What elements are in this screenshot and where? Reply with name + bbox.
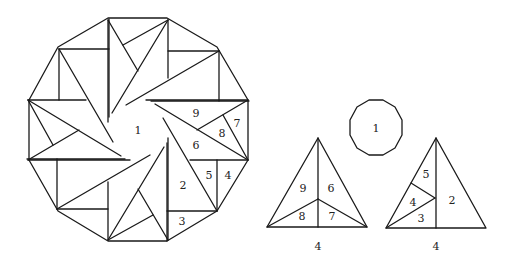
label-piece-9: 9 <box>193 107 200 120</box>
triangle-left-outline <box>267 138 367 227</box>
dissection-quarter-west <box>28 19 130 160</box>
label-tri-left-8: 8 <box>299 210 306 223</box>
label-tri-left-base: 4 <box>315 240 322 253</box>
label-small-dodecagon: 1 <box>373 122 380 135</box>
dissection-quarter-south <box>27 138 168 240</box>
label-piece-2: 2 <box>180 179 187 192</box>
label-piece-6: 6 <box>193 139 200 152</box>
label-tri-right-base: 4 <box>433 240 440 253</box>
dissection-diagram: 1 9 8 7 6 5 4 2 3 1 9 6 8 7 4 5 4 3 2 4 <box>0 0 510 264</box>
label-piece-1: 1 <box>135 124 142 137</box>
label-tri-right-2: 2 <box>449 194 456 207</box>
label-tri-left-6: 6 <box>328 182 335 195</box>
label-tri-left-7: 7 <box>329 210 336 223</box>
dissection-quarter-north <box>108 20 249 122</box>
label-tri-left-9: 9 <box>300 182 307 195</box>
label-piece-5: 5 <box>206 169 213 182</box>
label-piece-7: 7 <box>234 117 241 130</box>
label-tri-right-3: 3 <box>418 212 425 225</box>
label-piece-3: 3 <box>179 215 186 228</box>
label-tri-right-5: 5 <box>423 168 430 181</box>
label-piece-8: 8 <box>219 127 226 140</box>
label-piece-4: 4 <box>225 169 232 182</box>
label-tri-right-4: 4 <box>410 196 417 209</box>
